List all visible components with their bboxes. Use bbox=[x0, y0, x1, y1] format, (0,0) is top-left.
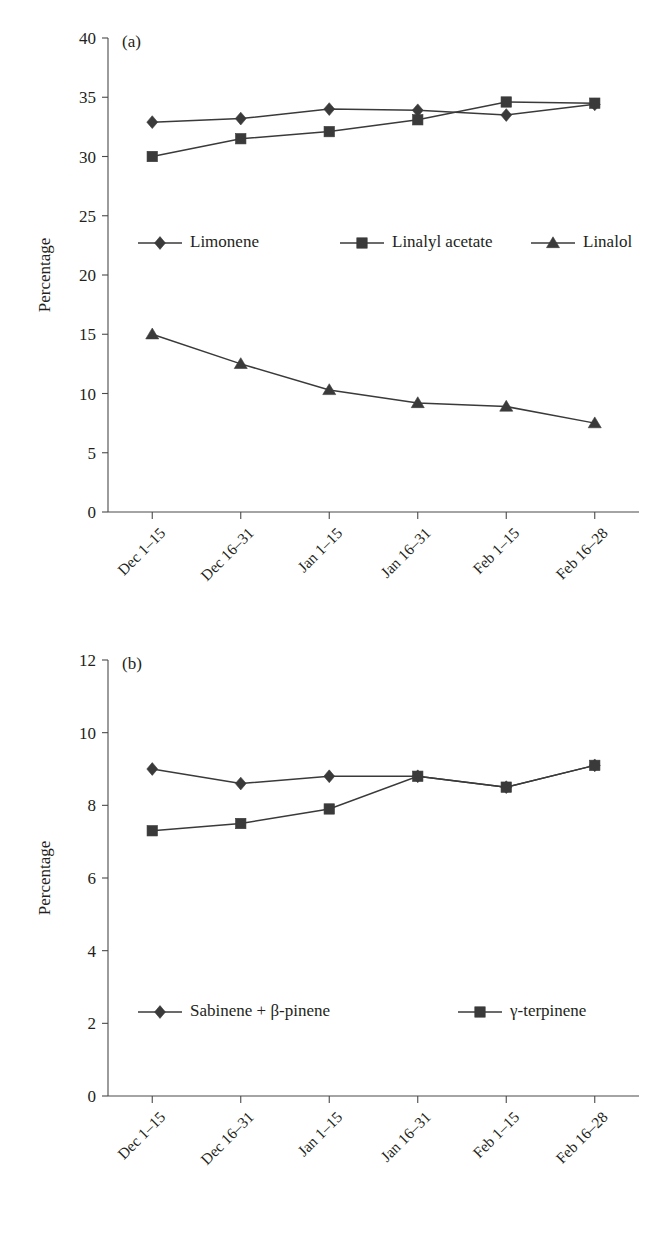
x-tick-label-5: Feb 16–28 bbox=[552, 1108, 611, 1167]
data-point-square-5 bbox=[590, 98, 600, 108]
line-chart-b: 024681012Dec 1–15Dec 16–31Jan 1–15Jan 16… bbox=[0, 620, 647, 1249]
series-line bbox=[152, 104, 595, 122]
series-linalol bbox=[146, 328, 602, 428]
legend: Sabinene + β-pineneγ-terpinene bbox=[138, 1001, 586, 1020]
y-axis-title: Percentage bbox=[35, 841, 54, 916]
y-tick-label-10: 10 bbox=[79, 724, 96, 743]
legend-label-1: Linalyl acetate bbox=[392, 232, 493, 251]
series-linalyl-acetate bbox=[147, 97, 600, 162]
legend-label-0: Limonene bbox=[190, 232, 259, 251]
y-tick-label-30: 30 bbox=[79, 148, 96, 167]
series-line bbox=[152, 334, 595, 423]
legend-label-2: Linalol bbox=[583, 232, 632, 251]
y-tick-label-35: 35 bbox=[79, 88, 96, 107]
y-tick-label-15: 15 bbox=[79, 325, 96, 344]
data-point-square-1 bbox=[236, 134, 246, 144]
legend-marker-diamond bbox=[138, 237, 182, 250]
x-tick-label-0: Dec 1–15 bbox=[114, 524, 169, 579]
data-point-square-4 bbox=[501, 782, 511, 792]
data-point-diamond-2 bbox=[324, 770, 335, 783]
data-point-square-4 bbox=[501, 97, 511, 107]
data-point-diamond-legend bbox=[155, 237, 166, 250]
y-tick-label-0: 0 bbox=[88, 1087, 97, 1106]
y-tick-label-25: 25 bbox=[79, 207, 96, 226]
data-point-triangle-0 bbox=[146, 328, 159, 339]
y-tick-label-4: 4 bbox=[88, 942, 97, 961]
y-axis-title: Percentage bbox=[35, 238, 54, 313]
y-tick-label-12: 12 bbox=[79, 651, 96, 670]
data-point-diamond-legend bbox=[155, 1006, 166, 1019]
x-tick-label-3: Jan 16–31 bbox=[377, 524, 434, 581]
x-tick-label-0: Dec 1–15 bbox=[114, 1108, 169, 1163]
panel-tag: (b) bbox=[122, 654, 142, 673]
data-point-square-5 bbox=[590, 760, 600, 770]
legend-marker-square bbox=[340, 238, 384, 248]
y-tick-label-10: 10 bbox=[79, 385, 96, 404]
series-line bbox=[152, 765, 595, 830]
x-tick-label-2: Jan 1–15 bbox=[294, 524, 345, 575]
legend-item-1[interactable]: γ-terpinene bbox=[458, 1001, 586, 1020]
series-terpinene bbox=[147, 760, 600, 836]
legend-label-1: γ-terpinene bbox=[509, 1001, 586, 1020]
data-point-diamond-1 bbox=[235, 112, 246, 125]
data-point-square-1 bbox=[236, 818, 246, 828]
x-tick-label-4: Feb 1–15 bbox=[469, 524, 522, 577]
legend-marker-square bbox=[458, 1007, 502, 1017]
x-tick-label-1: Dec 16–31 bbox=[197, 524, 257, 584]
x-tick-label-3: Jan 16–31 bbox=[377, 1108, 434, 1165]
x-tick-label-5: Feb 16–28 bbox=[552, 524, 611, 583]
y-tick-label-5: 5 bbox=[88, 444, 97, 463]
y-tick-label-40: 40 bbox=[79, 29, 96, 48]
legend-item-1[interactable]: Linalyl acetate bbox=[340, 232, 493, 251]
data-point-diamond-4 bbox=[501, 109, 512, 122]
data-point-triangle-legend bbox=[546, 237, 559, 248]
series-sabinene-pinene bbox=[147, 759, 600, 794]
data-point-diamond-1 bbox=[235, 777, 246, 790]
y-tick-label-2: 2 bbox=[88, 1014, 97, 1033]
chart-panel-a: 0510152025303540Dec 1–15Dec 16–31Jan 1–1… bbox=[0, 0, 647, 620]
x-tick-label-1: Dec 16–31 bbox=[197, 1108, 257, 1168]
chart-panel-b: 024681012Dec 1–15Dec 16–31Jan 1–15Jan 16… bbox=[0, 620, 647, 1249]
data-point-square-3 bbox=[413, 115, 423, 125]
data-point-square-2 bbox=[324, 126, 334, 136]
data-point-square-0 bbox=[147, 151, 157, 161]
data-point-diamond-0 bbox=[147, 116, 158, 129]
legend: LimoneneLinalyl acetateLinalol bbox=[138, 232, 632, 251]
legend-item-2[interactable]: Linalol bbox=[531, 232, 632, 251]
data-point-diamond-0 bbox=[147, 763, 158, 776]
y-tick-label-0: 0 bbox=[88, 503, 97, 522]
data-point-square-3 bbox=[413, 771, 423, 781]
line-chart-a: 0510152025303540Dec 1–15Dec 16–31Jan 1–1… bbox=[0, 0, 647, 620]
legend-marker-triangle bbox=[531, 237, 575, 248]
data-point-square-0 bbox=[147, 826, 157, 836]
series-line bbox=[152, 765, 595, 787]
data-point-square-legend bbox=[475, 1007, 485, 1017]
x-tick-label-2: Jan 1–15 bbox=[294, 1108, 345, 1159]
panel-tag: (a) bbox=[122, 32, 141, 51]
x-tick-label-4: Feb 1–15 bbox=[469, 1108, 522, 1161]
data-point-diamond-2 bbox=[324, 103, 335, 116]
data-point-square-legend bbox=[357, 238, 367, 248]
legend-label-0: Sabinene + β-pinene bbox=[190, 1001, 330, 1020]
legend-item-0[interactable]: Limonene bbox=[138, 232, 259, 251]
y-tick-label-6: 6 bbox=[88, 869, 97, 888]
legend-item-0[interactable]: Sabinene + β-pinene bbox=[138, 1001, 330, 1020]
y-tick-label-20: 20 bbox=[79, 266, 96, 285]
y-tick-label-8: 8 bbox=[88, 796, 97, 815]
legend-marker-diamond bbox=[138, 1006, 182, 1019]
data-point-square-2 bbox=[324, 804, 334, 814]
